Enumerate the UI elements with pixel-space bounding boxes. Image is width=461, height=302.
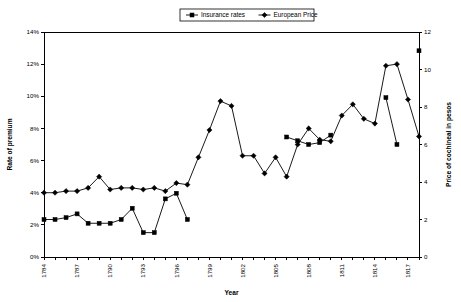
data-point-1 [97,221,101,225]
y-axis-tick-label: 2% [30,221,39,228]
x-axis-tick-label: 1817 [404,263,411,277]
x-axis-tick-label: 1805 [272,263,279,277]
x-axis-tick-label: 1784 [40,263,47,277]
legend-label-2: European Price [274,11,318,19]
legend-marker-1 [190,13,194,17]
x-axis-tick-label: 1793 [139,263,146,277]
data-point-1 [53,218,57,222]
data-point-1 [130,206,134,210]
y2-axis-tick-label: 4 [424,178,428,185]
x-axis-tick-label: 1814 [371,263,378,277]
data-point-1 [119,218,123,222]
y-axis-title: Rate of premium [6,118,14,170]
data-point-1 [75,212,79,216]
x-axis-tick-label: 1790 [106,263,113,277]
data-point-1 [417,49,421,53]
chart-container: 0%2%4%6%8%10%12%14%024681012178417871790… [0,0,461,302]
data-point-1 [174,191,178,195]
data-point-1 [64,216,68,220]
y-axis-tick-label: 0% [30,253,39,260]
x-axis-tick-label: 1802 [239,263,246,277]
y-axis-tick-label: 8% [30,125,39,132]
data-point-1 [395,143,399,147]
data-point-1 [384,96,388,100]
data-point-1 [141,231,145,235]
data-point-1 [285,135,289,139]
data-point-1 [42,218,46,222]
y2-axis-tick-label: 8 [424,103,428,110]
dual-axis-line-chart: 0%2%4%6%8%10%12%14%024681012178417871790… [0,0,461,302]
x-axis-tick-label: 1787 [73,263,80,277]
data-point-1 [329,133,333,137]
y2-axis-tick-label: 12 [424,28,431,35]
y-axis-tick-label: 10% [27,92,40,99]
data-point-1 [163,197,167,201]
y-axis-tick-label: 14% [27,28,40,35]
x-axis-tick-label: 1799 [206,263,213,277]
y2-axis-title: Price of cochineal in pesos [445,102,453,187]
data-point-1 [108,221,112,225]
y-axis-tick-label: 6% [30,157,39,164]
x-axis-title: Year [225,289,239,296]
y2-axis-tick-label: 10 [424,66,431,73]
y-axis-tick-label: 12% [27,60,40,67]
x-axis-tick-label: 1796 [173,263,180,277]
x-axis-tick-label: 1811 [338,263,345,277]
y-axis-tick-label: 4% [30,189,39,196]
x-axis-tick-label: 1808 [305,263,312,277]
data-point-1 [185,218,189,222]
legend-label-1: Insurance rates [201,11,245,18]
y2-axis-tick-label: 6 [424,141,428,148]
y2-axis-tick-label: 2 [424,216,428,223]
data-point-1 [152,231,156,235]
y2-axis-tick-label: 0 [424,253,428,260]
data-point-1 [307,143,311,147]
data-point-1 [86,221,90,225]
